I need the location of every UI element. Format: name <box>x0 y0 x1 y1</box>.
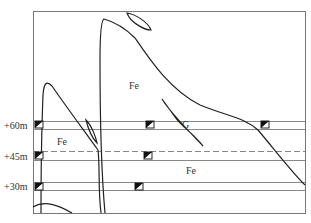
zone-label-g: G <box>182 120 189 130</box>
geologic-section-diagram <box>0 0 311 223</box>
diagram-frame <box>34 12 306 214</box>
zone-label-fe-left: Fe <box>57 137 67 147</box>
level-label-30m: +30m <box>4 182 27 192</box>
level-label-45m: +45m <box>4 152 27 162</box>
zone-label-fe-lower: Fe <box>186 166 196 176</box>
level-label-60m: +60m <box>4 121 27 131</box>
station-markers <box>35 121 269 190</box>
level-lines <box>33 122 305 191</box>
zone-label-fe-upper: Fe <box>129 81 139 91</box>
